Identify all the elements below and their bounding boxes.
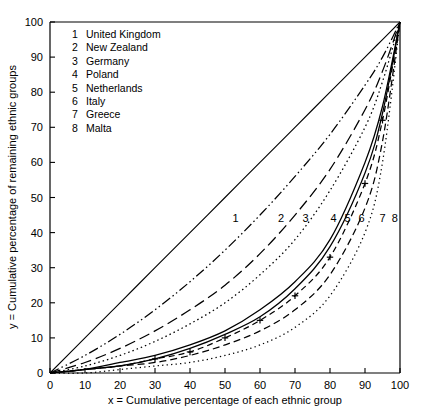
y-tick-label: 90	[31, 51, 43, 63]
curve-label-4: 4	[330, 212, 336, 224]
curve-label-1: 1	[232, 212, 238, 224]
x-tick-label: 0	[47, 379, 53, 391]
legend-label-8: Malta	[86, 122, 112, 134]
y-tick-label: 50	[31, 192, 43, 204]
legend-label-7: Greece	[86, 108, 121, 120]
y-tick-label: 80	[31, 86, 43, 98]
legend-label-5: Netherlands	[86, 82, 143, 94]
legend-label-1: United Kingdom	[86, 28, 161, 40]
x-tick-label: 90	[359, 379, 371, 391]
legend-number-4: 4	[72, 68, 78, 80]
legend-label-6: Italy	[86, 95, 106, 107]
legend-number-8: 8	[72, 122, 78, 134]
legend-number-2: 2	[72, 41, 78, 53]
y-tick-label: 0	[37, 367, 43, 379]
curve-label-5: 5	[344, 212, 350, 224]
curve-label-2: 2	[278, 212, 284, 224]
x-tick-label: 60	[254, 379, 266, 391]
y-tick-label: 70	[31, 121, 43, 133]
x-tick-label: 40	[184, 379, 196, 391]
y-tick-label: 20	[31, 297, 43, 309]
legend-number-6: 6	[72, 95, 78, 107]
legend-label-3: Germany	[86, 55, 130, 67]
legend-label-4: Poland	[86, 68, 119, 80]
x-tick-label: 20	[114, 379, 126, 391]
lorenz-curve-chart: 0102030405060708090100010203040506070809…	[0, 0, 428, 420]
y-tick-label: 100	[25, 16, 43, 28]
y-tick-label: 30	[31, 262, 43, 274]
y-tick-label: 60	[31, 156, 43, 168]
x-tick-label: 100	[391, 379, 409, 391]
curve-label-8: 8	[392, 212, 398, 224]
curve-label-3: 3	[302, 212, 308, 224]
legend-number-1: 1	[72, 28, 78, 40]
legend-number-7: 7	[72, 108, 78, 120]
curve-label-6: 6	[358, 212, 364, 224]
x-tick-label: 80	[324, 379, 336, 391]
legend-number-3: 3	[72, 55, 78, 67]
y-tick-label: 10	[31, 332, 43, 344]
x-tick-label: 50	[219, 379, 231, 391]
x-axis-label: x = Cumulative percentage of each ethnic…	[108, 394, 342, 406]
x-tick-label: 30	[149, 379, 161, 391]
legend-number-5: 5	[72, 82, 78, 94]
x-tick-label: 70	[289, 379, 301, 391]
y-axis-label: y = Cumulative percentage of remaining e…	[6, 65, 18, 329]
legend-label-2: New Zealand	[86, 41, 148, 53]
x-tick-label: 10	[79, 379, 91, 391]
curve-label-7: 7	[379, 212, 385, 224]
y-tick-label: 40	[31, 227, 43, 239]
